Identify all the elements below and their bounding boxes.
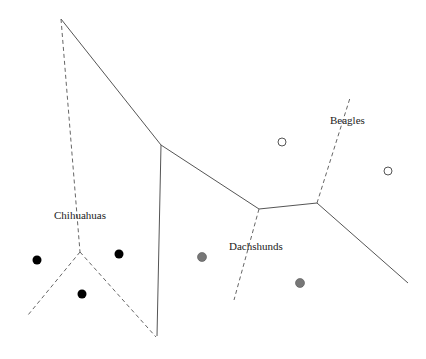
dachshund-point [296,279,305,288]
beagle-point [278,138,286,146]
intra-class-boundaries [28,19,350,337]
label-beagles: Beagles [330,114,365,126]
chihuahua-point [78,290,87,299]
dachshund-point [198,253,207,262]
voronoi-diagram: Chihuahuas Dachshunds Beagles [0,0,426,359]
chihuahua-dash-right [80,252,156,337]
beagle-point [384,167,392,175]
chihuahua-point [33,256,42,265]
label-dachshunds: Dachshunds [229,240,283,252]
dachshund-dash [234,209,259,300]
chihuahua-point [115,250,124,259]
boundary-vertical [157,145,161,336]
label-chihuahuas: Chihuahuas [54,209,106,221]
